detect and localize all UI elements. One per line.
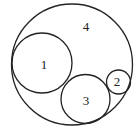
nested-circles-diagram: 4 1 3 2 <box>0 0 138 136</box>
diagram-svg: 4 1 3 2 <box>0 0 138 136</box>
label-1: 1 <box>41 57 48 72</box>
label-2: 2 <box>114 74 121 89</box>
label-4: 4 <box>83 19 90 34</box>
label-3: 3 <box>83 93 90 108</box>
